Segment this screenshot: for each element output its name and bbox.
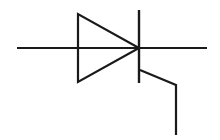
gate-lead: [140, 70, 176, 135]
thyristor-diagram: Thyristor (SCR) schematic symbol: [0, 0, 220, 140]
thyristor-symbol: [0, 0, 220, 140]
